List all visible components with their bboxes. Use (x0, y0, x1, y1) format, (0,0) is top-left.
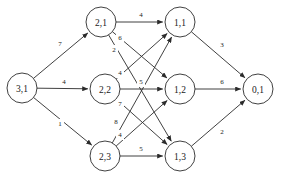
edge-weight-label-n31-to-n22: 4 (62, 78, 66, 86)
edge-weight-label-n12-to-n01: 6 (220, 78, 224, 86)
edge-weight-label-n21-to-n13: 2 (112, 46, 116, 54)
edge-weight-label-n23-to-n11: 8 (114, 118, 118, 126)
network-diagram: 3,12,12,22,31,11,21,30,1 741462457845362 (0, 0, 282, 181)
edge-n13-to-n01 (191, 100, 245, 146)
edge-weight-label-n23-to-n13: 5 (139, 145, 143, 153)
node-label: 2,1 (95, 18, 107, 28)
node-0-1[interactable]: 0,1 (243, 74, 273, 104)
node-label: 1,1 (174, 18, 186, 28)
edge-n11-to-n01 (191, 32, 245, 78)
edge-weight-label-n31-to-n23: 1 (58, 120, 62, 128)
edge-weight-label-n23-to-n12: 4 (118, 131, 122, 139)
edge-weight-label-n13-to-n01: 2 (220, 128, 224, 136)
node-2-3[interactable]: 2,3 (90, 141, 120, 171)
edge-weight-label-n21-to-n11: 4 (139, 11, 143, 19)
node-1-2[interactable]: 1,2 (165, 74, 195, 104)
edge-weight-label-n31-to-n21: 7 (58, 40, 62, 48)
node-2-1[interactable]: 2,1 (86, 7, 116, 37)
node-1-1[interactable]: 1,1 (165, 7, 195, 37)
node-label: 2,3 (99, 152, 111, 162)
node-label: 2,2 (99, 85, 111, 95)
edge-weight-label-n22-to-n13: 7 (118, 100, 122, 108)
edge-weight-label-n11-to-n01: 3 (220, 41, 224, 49)
node-3-1[interactable]: 3,1 (7, 73, 37, 103)
edge-weight-label-n22-to-n12: 5 (139, 78, 143, 86)
edge-weights-layer: 741462457845362 (56, 10, 226, 154)
node-2-2[interactable]: 2,2 (90, 74, 120, 104)
node-label: 1,2 (174, 85, 186, 95)
network-graph-canvas: 3,12,12,22,31,11,21,30,1 741462457845362 (0, 0, 282, 181)
node-label: 3,1 (16, 84, 28, 94)
edge-weight-label-n22-to-n11: 4 (118, 69, 122, 77)
node-label: 1,3 (174, 152, 186, 162)
edge-weight-label-n21-to-n12: 6 (118, 34, 122, 42)
node-1-3[interactable]: 1,3 (165, 141, 195, 171)
node-label: 0,1 (252, 85, 264, 95)
edges-layer (34, 22, 245, 156)
edge-n31-to-n22 (37, 88, 88, 89)
